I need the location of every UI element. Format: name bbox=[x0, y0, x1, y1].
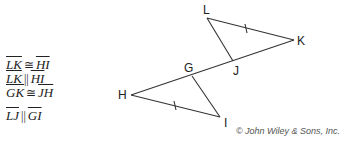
copyright-credit: © John Wiley & Sons, Inc. bbox=[236, 126, 340, 136]
segment-lk bbox=[207, 18, 294, 40]
segment-kh bbox=[131, 40, 294, 95]
segment-lj bbox=[207, 18, 233, 61]
vertex-label-k: K bbox=[297, 34, 305, 48]
vertex-label-j: J bbox=[233, 64, 239, 78]
vertex-label-i: I bbox=[224, 116, 227, 130]
vertex-label-h: H bbox=[118, 88, 127, 102]
vertex-label-l: L bbox=[203, 3, 210, 17]
vertex-label-g: G bbox=[184, 61, 193, 75]
geometry-diagram: L K J G H I bbox=[0, 0, 346, 146]
